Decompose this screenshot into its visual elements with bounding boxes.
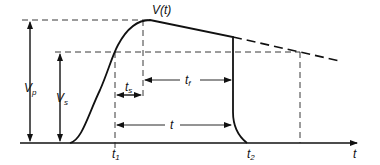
waveform-extension-dashed <box>233 37 340 61</box>
tf-label: tf <box>185 73 191 88</box>
ts-label: ts <box>125 80 132 95</box>
t1-label: t1 <box>112 147 120 162</box>
t-label: t <box>170 118 174 132</box>
curve-label: V(t) <box>152 3 171 17</box>
time-axis-label: t <box>353 147 357 161</box>
t2-label: t2 <box>247 147 255 162</box>
vp-label: Vp <box>24 81 37 97</box>
vs-label: Vs <box>56 91 68 107</box>
pulse-diagram: V(t) Vp Vs ts tf t t1 t2 t <box>0 0 380 165</box>
